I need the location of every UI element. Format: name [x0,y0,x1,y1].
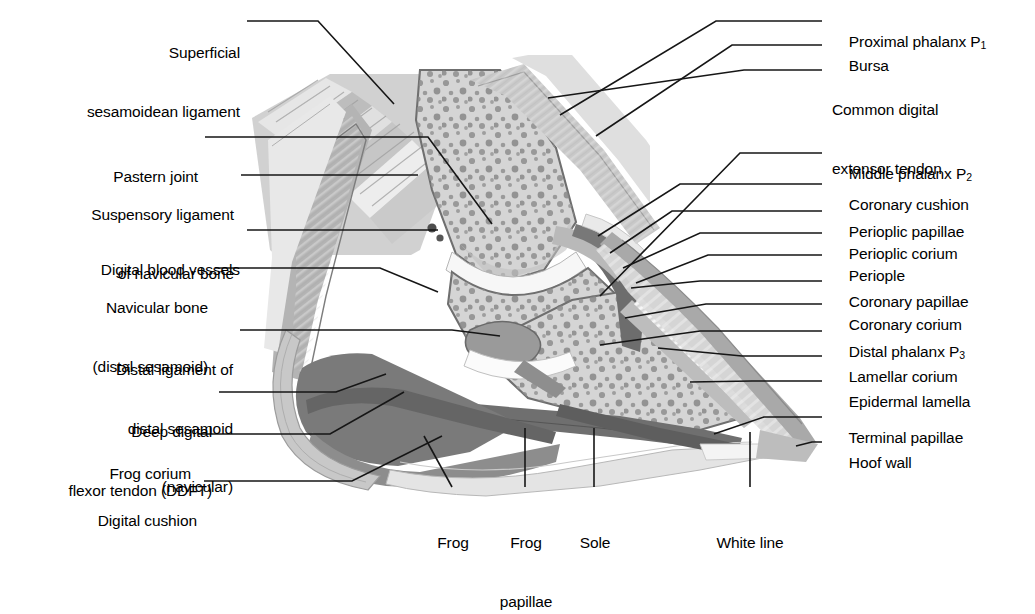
label-white-line: White line [697,494,803,592]
label-digital-cushion: Digital cushion [0,472,197,570]
label-frog: Frog [414,494,492,592]
illustration-body [252,48,818,496]
subscript-1: 1 [981,39,987,51]
label-sole: Sole [556,494,634,592]
leader-perioplic-corium [623,233,822,268]
subscript-3: 3 [959,349,965,361]
label-frog-papillae: Frog papillae [487,494,565,614]
label-hoof-wall: Hoof wall [832,433,912,492]
